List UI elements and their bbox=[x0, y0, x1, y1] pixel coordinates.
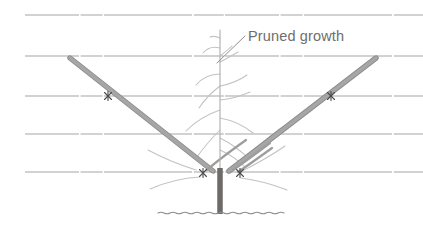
arm-left bbox=[70, 58, 213, 171]
pruned-side-shoots bbox=[148, 36, 287, 190]
tie-left-base bbox=[200, 169, 207, 178]
trained-arms bbox=[70, 58, 376, 171]
pruning-diagram: Pruned growth bbox=[0, 0, 423, 225]
diagram-canvas: Pruned growth bbox=[0, 0, 423, 225]
trellis-wires bbox=[25, 15, 423, 172]
arm-right bbox=[229, 58, 376, 171]
pruned-growth-label: Pruned growth bbox=[248, 28, 344, 44]
pruned-growth-leader-line bbox=[217, 36, 245, 63]
